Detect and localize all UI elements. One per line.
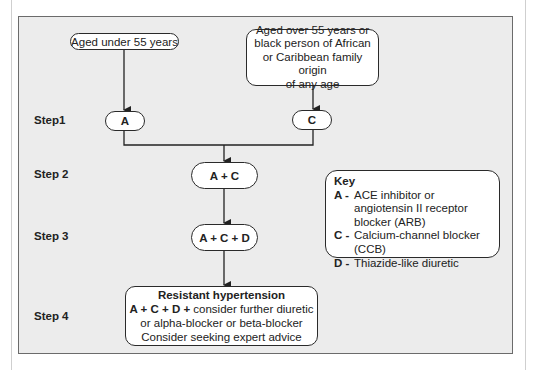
step-2-label: Step 2: [34, 168, 69, 180]
node-aged-under-55-label: Aged under 55 years: [71, 35, 178, 49]
node-a-plus-c: A + C: [191, 162, 258, 189]
legend-item-a-letter: A -: [334, 189, 354, 230]
legend-item-d-letter: D -: [334, 257, 354, 271]
node-aged-over-55: Aged over 55 years or black person of Af…: [246, 29, 379, 86]
node-a-plus-c-plus-d-label: A + C + D: [199, 231, 250, 245]
node-aged-over-55-line4: of any age: [286, 78, 340, 92]
resistant-hypertension-title: Resistant hypertension: [158, 288, 285, 302]
legend-item-d-text: Thiazide-like diuretic: [354, 257, 491, 271]
node-aged-under-55: Aged under 55 years: [70, 33, 179, 50]
step-4-label: Step 4: [34, 310, 69, 322]
resistant-hypertension-bold-prefix: A + C + D +: [130, 303, 191, 315]
resistant-hypertension-line3: Consider seeking expert advice: [141, 330, 301, 344]
node-c: C: [292, 110, 332, 130]
legend-item-c-letter: C -: [334, 229, 354, 256]
node-resistant-hypertension: Resistant hypertension A + C + D + consi…: [125, 286, 318, 346]
legend-item-a-text: ACE inhibitor or angiotensin II receptor…: [354, 189, 491, 230]
node-a: A: [105, 111, 145, 131]
legend-item-d: D - Thiazide-like diuretic: [334, 257, 491, 271]
node-aged-over-55-line2: black person of African: [254, 37, 370, 51]
legend-item-a: A - ACE inhibitor or angiotensin II rece…: [334, 189, 491, 230]
legend-item-c: C - Calcium-channel blocker (CCB): [334, 229, 491, 256]
node-a-plus-c-plus-d: A + C + D: [191, 224, 258, 251]
legend-title: Key: [334, 175, 491, 189]
step-1-label: Step1: [34, 114, 65, 126]
resistant-hypertension-line1-rest: consider further diuretic: [190, 303, 313, 315]
node-c-label: C: [308, 113, 316, 127]
legend-key-box: Key A - ACE inhibitor or angiotensin II …: [325, 170, 500, 258]
legend-item-c-text: Calcium-channel blocker (CCB): [354, 229, 491, 256]
node-aged-over-55-line3: or Caribbean family origin: [247, 51, 378, 78]
node-aged-over-55-line1: Aged over 55 years or: [256, 24, 369, 38]
step-3-label: Step 3: [34, 230, 69, 242]
resistant-hypertension-line1: A + C + D + consider further diuretic: [130, 302, 314, 316]
node-a-plus-c-label: A + C: [210, 169, 239, 183]
node-a-label: A: [121, 114, 129, 128]
resistant-hypertension-line2: or alpha-blocker or beta-blocker: [140, 316, 302, 330]
